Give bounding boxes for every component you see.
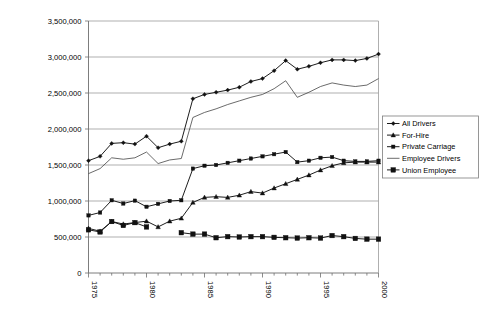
data-point-marker	[319, 156, 322, 159]
x-axis-tick-label: 1985	[206, 281, 215, 298]
data-point-marker	[354, 160, 357, 163]
data-point-marker	[272, 153, 275, 156]
data-point-marker	[237, 235, 242, 240]
data-point-marker	[98, 230, 103, 235]
data-point-marker	[377, 159, 380, 162]
y-axis-tick-label: 2,500,000	[48, 89, 82, 98]
legend-swatch-marker	[392, 145, 395, 148]
data-point-marker	[225, 234, 230, 239]
data-point-marker	[156, 202, 159, 205]
legend-item-label: Private Carriage	[402, 142, 455, 151]
y-axis-tick-label: 0	[77, 269, 81, 278]
y-axis-tick-label: 1,000,000	[48, 197, 82, 206]
data-point-marker	[365, 160, 368, 163]
data-point-marker	[330, 155, 333, 158]
legend-item-label: All Drivers	[402, 119, 436, 128]
data-point-marker	[214, 163, 217, 166]
data-point-marker	[284, 150, 287, 153]
data-point-marker	[238, 159, 241, 162]
data-point-marker	[121, 223, 126, 228]
data-point-marker	[179, 230, 184, 235]
data-point-marker	[330, 233, 335, 238]
data-point-marker	[133, 199, 136, 202]
data-point-marker	[295, 236, 300, 241]
legend-item-label: Employee Drivers	[402, 154, 461, 163]
y-axis-tick-label: 1,500,000	[48, 161, 82, 170]
data-point-marker	[214, 235, 219, 240]
x-axis-tick-label: 1980	[148, 281, 157, 298]
data-point-marker	[191, 167, 194, 170]
data-point-marker	[342, 159, 345, 162]
data-point-marker	[392, 145, 395, 148]
data-point-marker	[376, 237, 381, 242]
data-point-marker	[307, 159, 310, 162]
data-point-marker	[191, 232, 196, 237]
data-point-marker	[122, 202, 125, 205]
legend-item-label: For-Hire	[402, 131, 429, 140]
data-point-marker	[272, 235, 277, 240]
data-point-marker	[296, 160, 299, 163]
data-point-marker	[261, 155, 264, 158]
legend-item-label: Union Employee	[402, 166, 456, 175]
x-axis-tick-label: 1975	[90, 281, 99, 298]
data-point-marker	[391, 168, 396, 173]
chart-legend: All DriversFor-HirePrivate CarriageEmplo…	[383, 116, 479, 178]
legend-swatch-marker	[391, 168, 396, 173]
data-point-marker	[353, 236, 358, 241]
data-point-marker	[203, 164, 206, 167]
data-point-marker	[365, 237, 370, 242]
data-point-marker	[144, 225, 149, 230]
data-point-marker	[249, 157, 252, 160]
data-point-marker	[318, 236, 323, 241]
y-axis-tick-label: 3,000,000	[48, 53, 82, 62]
x-axis-tick-label: 1995	[322, 281, 331, 298]
data-point-marker	[133, 220, 138, 225]
data-point-marker	[110, 199, 113, 202]
data-point-marker	[283, 235, 288, 240]
y-axis-tick-label: 3,500,000	[48, 17, 82, 26]
data-point-marker	[98, 211, 101, 214]
data-point-marker	[341, 234, 346, 239]
data-point-marker	[226, 161, 229, 164]
y-axis-tick-label: 2,000,000	[48, 125, 82, 134]
x-axis-tick-label: 1990	[264, 281, 273, 298]
data-point-marker	[307, 235, 312, 240]
data-point-marker	[168, 199, 171, 202]
data-point-marker	[249, 234, 254, 239]
y-axis-tick-label: 500,000	[54, 233, 81, 242]
data-point-marker	[202, 232, 207, 237]
x-axis-tick-label: 2000	[380, 281, 389, 298]
data-point-marker	[86, 228, 91, 233]
data-point-marker	[180, 199, 183, 202]
data-point-marker	[145, 205, 148, 208]
chart-container: 0500,0001,000,0001,500,0002,000,0002,500…	[0, 0, 497, 322]
data-point-marker	[260, 234, 265, 239]
data-point-marker	[109, 219, 114, 224]
line-chart: 0500,0001,000,0001,500,0002,000,0002,500…	[0, 0, 497, 322]
data-point-marker	[87, 214, 90, 217]
